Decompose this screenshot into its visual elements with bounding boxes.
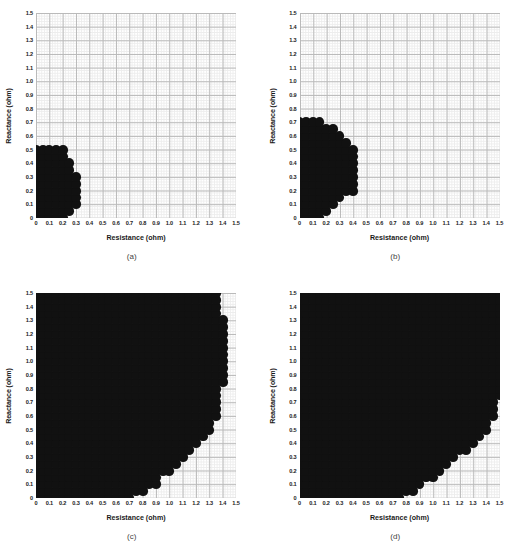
y-tick-label: 0.5 — [289, 147, 296, 153]
panel-caption: (a) — [0, 252, 264, 261]
y-tick-label: 0.7 — [289, 119, 296, 125]
x-tick-label: 1.1 — [179, 220, 186, 226]
x-tick-labels: 00.10.20.30.40.50.60.70.80.91.01.11.21.3… — [36, 220, 236, 230]
y-tick-labels: 00.10.20.30.40.50.60.70.80.91.01.11.21.3… — [0, 13, 33, 218]
y-tick-label: 0.2 — [26, 188, 33, 194]
y-tick-label: 1.3 — [289, 317, 296, 323]
y-tick-label: 0.1 — [26, 481, 33, 487]
data-points — [300, 293, 500, 498]
data-point — [315, 117, 325, 127]
x-tick-label: 0.4 — [86, 220, 93, 226]
x-tick-label: 1.0 — [429, 500, 436, 506]
y-tick-label: 0.4 — [289, 160, 296, 166]
y-tick-label: 1.0 — [26, 78, 33, 84]
x-tick-label: 0.1 — [309, 500, 316, 506]
x-tick-label: 0.9 — [152, 500, 159, 506]
x-tick-label: 1.4 — [219, 500, 226, 506]
x-tick-label: 1.2 — [456, 500, 463, 506]
y-tick-label: 0.3 — [289, 174, 296, 180]
x-tick-labels: 00.10.20.30.40.50.60.70.80.91.01.11.21.3… — [300, 220, 500, 230]
x-tick-label: 0.2 — [322, 220, 329, 226]
x-tick-label: 1.3 — [206, 220, 213, 226]
x-tick-label: 0 — [298, 500, 301, 506]
y-tick-label: 1.1 — [289, 65, 296, 71]
x-tick-label: 1.2 — [456, 220, 463, 226]
x-tick-label: 0.5 — [362, 220, 369, 226]
x-tick-label: 0.1 — [46, 220, 53, 226]
y-tick-label: 0.8 — [289, 106, 296, 112]
x-tick-label: 0.8 — [402, 500, 409, 506]
x-tick-label: 0.3 — [72, 220, 79, 226]
x-tick-label: 1.0 — [166, 500, 173, 506]
y-tick-labels: 00.10.20.30.40.50.60.70.80.91.01.11.21.3… — [264, 13, 297, 218]
y-tick-label: 1.2 — [26, 331, 33, 337]
y-tick-label: 1.1 — [289, 345, 296, 351]
x-tick-label: 0.5 — [99, 500, 106, 506]
x-tick-label: 1.5 — [232, 220, 239, 226]
panel-b: Reactance (ohm)00.10.20.30.40.50.60.70.8… — [264, 0, 527, 280]
x-tick-label: 0.9 — [416, 220, 423, 226]
y-tick-label: 0.2 — [26, 468, 33, 474]
y-tick-label: 0.8 — [26, 386, 33, 392]
x-tick-label: 0 — [35, 500, 38, 506]
y-tick-label: 1.4 — [289, 304, 296, 310]
y-tick-label: 0.9 — [289, 92, 296, 98]
x-axis-title: Resistance (ohm) — [36, 514, 236, 522]
x-tick-label: 1.3 — [469, 500, 476, 506]
y-tick-label: 1.3 — [26, 37, 33, 43]
y-tick-labels: 00.10.20.30.40.50.60.70.80.91.01.11.21.3… — [0, 293, 33, 498]
y-tick-label: 1.3 — [26, 317, 33, 323]
data-points — [300, 13, 500, 218]
x-tick-label: 0 — [298, 220, 301, 226]
x-tick-label: 0.7 — [389, 500, 396, 506]
y-tick-label: 1.0 — [26, 358, 33, 364]
x-tick-label: 0.7 — [126, 500, 133, 506]
x-tick-label: 0.4 — [86, 500, 93, 506]
x-tick-label: 0.6 — [112, 220, 119, 226]
y-tick-label: 0.4 — [26, 160, 33, 166]
x-tick-label: 1.1 — [442, 220, 449, 226]
y-tick-label: 0.2 — [289, 468, 296, 474]
x-tick-label: 1.2 — [192, 220, 199, 226]
y-tick-label: 0.4 — [26, 440, 33, 446]
y-tick-label: 1.4 — [26, 304, 33, 310]
y-tick-label: 1.3 — [289, 37, 296, 43]
y-tick-label: 0.1 — [26, 201, 33, 207]
y-tick-label: 0 — [30, 495, 33, 501]
x-tick-label: 1.4 — [219, 220, 226, 226]
panel-caption: (d) — [264, 532, 527, 541]
y-tick-label: 0.6 — [289, 413, 296, 419]
x-tick-label: 0.6 — [376, 220, 383, 226]
data-point — [58, 145, 68, 155]
y-tick-label: 0.7 — [26, 399, 33, 405]
y-tick-label: 1.2 — [289, 331, 296, 337]
y-tick-label: 1.4 — [26, 24, 33, 30]
data-points — [36, 13, 236, 218]
x-tick-labels: 00.10.20.30.40.50.60.70.80.91.01.11.21.3… — [36, 500, 236, 510]
x-axis-title: Resistance (ohm) — [36, 234, 236, 242]
y-tick-label: 0.6 — [289, 133, 296, 139]
x-tick-label: 0.8 — [402, 220, 409, 226]
y-tick-label: 0.5 — [289, 427, 296, 433]
panel-d: Reactance (ohm)00.10.20.30.40.50.60.70.8… — [264, 280, 527, 560]
y-tick-label: 1.2 — [26, 51, 33, 57]
plot-area — [36, 293, 236, 498]
y-tick-label: 1.5 — [26, 290, 33, 296]
x-tick-label: 0.1 — [46, 500, 53, 506]
x-tick-label: 0.2 — [59, 500, 66, 506]
y-tick-label: 0.1 — [289, 201, 296, 207]
y-tick-label: 0.2 — [289, 188, 296, 194]
x-tick-label: 0.3 — [72, 500, 79, 506]
x-tick-label: 0.9 — [416, 500, 423, 506]
y-tick-label: 0 — [294, 495, 297, 501]
panel-c: Reactance (ohm)00.10.20.30.40.50.60.70.8… — [0, 280, 264, 560]
y-tick-label: 1.4 — [289, 24, 296, 30]
panel-a: Reactance (ohm)00.10.20.30.40.50.60.70.8… — [0, 0, 264, 280]
x-tick-label: 0.5 — [362, 500, 369, 506]
x-tick-label: 0.5 — [99, 220, 106, 226]
y-tick-label: 0.9 — [26, 92, 33, 98]
x-tick-label: 0.1 — [309, 220, 316, 226]
y-tick-label: 1.0 — [289, 78, 296, 84]
data-point — [328, 124, 338, 134]
x-tick-label: 1.0 — [429, 220, 436, 226]
